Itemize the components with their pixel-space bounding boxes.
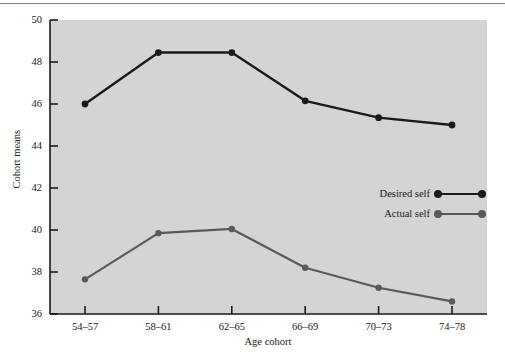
y-tick-label: 40 (18, 225, 42, 236)
legend-label-actual-self: Actual self (384, 209, 434, 220)
chart-legend: Desired self Actual self (336, 186, 486, 224)
y-tick-label: 48 (18, 57, 42, 68)
data-point (82, 276, 88, 282)
data-point (375, 114, 382, 121)
data-point (449, 298, 455, 304)
series-line-desired-self (85, 53, 452, 125)
data-point (449, 122, 456, 129)
legend-marker-icon (434, 190, 442, 198)
series-group (82, 49, 456, 304)
legend-entry-actual-self[interactable]: Actual self (336, 206, 486, 222)
legend-marker-icon (434, 210, 442, 218)
x-tick-label: 70–73 (349, 322, 409, 333)
series-line-actual-self (85, 229, 452, 301)
legend-swatch-desired-self (434, 188, 486, 200)
y-tick-label: 36 (18, 309, 42, 320)
x-axis-title: Age cohort (188, 337, 348, 348)
figure-container: 3638404244464850 54–5758–6162–6566–6970–… (0, 0, 505, 354)
chart-canvas (0, 0, 505, 354)
data-point (302, 97, 309, 104)
data-point (82, 101, 89, 108)
y-tick-label: 50 (18, 15, 42, 26)
axes-group (50, 20, 487, 314)
legend-entry-desired-self[interactable]: Desired self (336, 186, 486, 202)
data-point (155, 49, 162, 56)
data-point (229, 226, 235, 232)
legend-marker-icon (478, 190, 486, 198)
legend-swatch-actual-self (434, 208, 486, 220)
y-tick-label: 38 (18, 267, 42, 278)
x-tick-label: 54–57 (55, 322, 115, 333)
legend-label-desired-self: Desired self (380, 189, 434, 200)
x-tick-label: 58–61 (128, 322, 188, 333)
y-tick-label: 46 (18, 99, 42, 110)
data-point (302, 265, 308, 271)
x-tick-label: 74–78 (422, 322, 482, 333)
legend-marker-icon (478, 210, 486, 218)
data-point (375, 285, 381, 291)
data-point (228, 49, 235, 56)
data-point (155, 230, 161, 236)
y-axis-title: Cohort means (12, 114, 23, 204)
x-tick-label: 62–65 (202, 322, 262, 333)
x-tick-label: 66–69 (275, 322, 335, 333)
